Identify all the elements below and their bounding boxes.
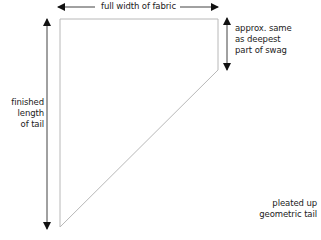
caption-line: pleated up — [240, 198, 317, 209]
fabric-width-label: full width of fabric — [100, 1, 177, 12]
tail-length-line: finished — [0, 97, 44, 108]
tail-shape-outline — [60, 19, 218, 227]
tail-length-line: of tail — [0, 119, 44, 130]
swag-depth-line: approx. same — [235, 23, 292, 34]
swag-depth-label: approx. same as deepest part of swag — [235, 23, 292, 56]
caption: pleated up geometric tail — [240, 198, 317, 220]
swag-depth-line: as deepest — [235, 34, 292, 45]
swag-depth-line: part of swag — [235, 45, 292, 56]
tail-length-line: length — [0, 108, 44, 119]
caption-line: geometric tail — [240, 209, 317, 220]
tail-length-label: finished length of tail — [0, 97, 44, 130]
